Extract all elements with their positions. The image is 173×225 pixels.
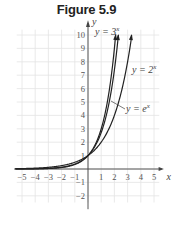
x-tick-label: 5 xyxy=(152,172,156,182)
y-tick-label: −2 xyxy=(76,191,85,201)
y-tick-label: 6 xyxy=(81,84,85,94)
y-tick-label: 5 xyxy=(81,97,85,107)
y-tick-label: 3 xyxy=(81,124,85,134)
y-tick-label: 10 xyxy=(77,30,86,40)
y-axis-arrow-icon xyxy=(86,20,90,27)
curves xyxy=(15,34,133,169)
y-tick-label: 7 xyxy=(81,70,85,80)
label-2-pow-x: y = 2x xyxy=(131,63,157,75)
y-tick-label: −1 xyxy=(76,177,85,187)
y-tick-label: 8 xyxy=(81,57,85,67)
x-axis-label: x xyxy=(166,171,172,182)
x-tick-label: 1 xyxy=(99,172,103,182)
label-e-pow-x: y = ex xyxy=(125,102,151,114)
exponential-chart: −5−4−3−2−112345−2−112345678910xy y = 3xy… xyxy=(0,0,173,225)
x-tick-label: 2 xyxy=(112,172,116,182)
y-axis-label: y xyxy=(91,16,97,27)
x-tick-label: −2 xyxy=(57,172,66,182)
y-tick-label: 2 xyxy=(81,137,85,147)
x-tick-label: −3 xyxy=(44,172,53,182)
x-tick-label: −4 xyxy=(31,172,41,182)
x-tick-label: 4 xyxy=(139,172,144,182)
x-tick-label: −5 xyxy=(17,172,26,182)
x-axis-arrow-icon xyxy=(159,167,164,171)
x-tick-label: 3 xyxy=(125,172,129,182)
y-tick-label: 9 xyxy=(81,43,85,53)
